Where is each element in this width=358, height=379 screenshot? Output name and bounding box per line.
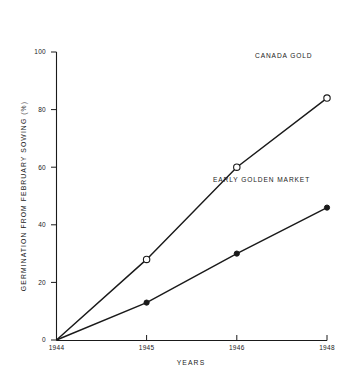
early-golden-market-marker-1946 bbox=[234, 251, 239, 256]
early-golden-market-annotation: EARLY GOLDEN MARKET bbox=[213, 176, 310, 183]
y-tick-label-60: 60 bbox=[38, 164, 46, 171]
x-tick-label-1948: 1948 bbox=[319, 344, 335, 351]
series-early-golden-market: EARLY GOLDEN MARKET bbox=[57, 176, 330, 340]
early-golden-market-marker-1948 bbox=[324, 205, 329, 210]
y-tick-label-20: 20 bbox=[38, 279, 46, 286]
early-golden-market-marker-1945 bbox=[144, 300, 149, 305]
series-canada-gold: CANADA GOLD bbox=[57, 52, 331, 340]
canada-gold-marker-1948 bbox=[324, 95, 330, 101]
y-axis-title: GERMINATION FROM FEBRUARY SOWING (%) bbox=[20, 101, 28, 291]
y-tick-label-80: 80 bbox=[38, 106, 46, 113]
chart-canvas: 100 80 60 40 20 0 GERMINATION FROM FEBRU… bbox=[0, 0, 358, 379]
x-axis-title: YEARS bbox=[177, 359, 206, 366]
early-golden-market-line bbox=[57, 208, 328, 340]
y-axis: 100 80 60 40 20 0 GERMINATION FROM FEBRU… bbox=[20, 48, 57, 343]
y-tick-label-0: 0 bbox=[42, 336, 46, 343]
canada-gold-annotation: CANADA GOLD bbox=[255, 52, 313, 59]
x-tick-label-1944: 1944 bbox=[49, 344, 65, 351]
x-axis: 1944 1945 1946 1948 YEARS bbox=[49, 335, 335, 366]
canada-gold-line bbox=[57, 98, 328, 340]
canada-gold-marker-1945 bbox=[143, 256, 149, 262]
x-tick-label-1945: 1945 bbox=[139, 344, 155, 351]
germination-line-chart: 100 80 60 40 20 0 GERMINATION FROM FEBRU… bbox=[0, 0, 358, 379]
canada-gold-marker-1946 bbox=[234, 164, 240, 170]
y-tick-label-40: 40 bbox=[38, 221, 46, 228]
y-tick-label-100: 100 bbox=[34, 48, 46, 55]
x-tick-label-1946: 1946 bbox=[229, 344, 245, 351]
